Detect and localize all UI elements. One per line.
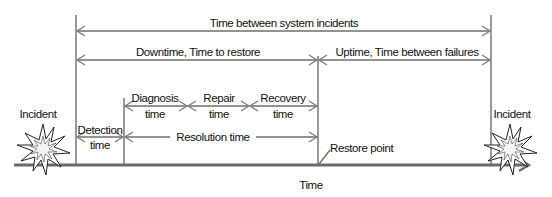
incident-timeline-diagram: Time between system incidents Downtime, … [0, 0, 552, 197]
time-between-incidents-label: Time between system incidents [210, 17, 359, 29]
resolution-label: Resolution time [176, 131, 249, 143]
detection-label-time: time [90, 139, 110, 151]
recovery-label-time: time [273, 108, 293, 120]
repair-label-time: time [209, 108, 229, 120]
incident-right-label: Incident [493, 108, 531, 120]
restore-point-label: Restore point [330, 142, 394, 154]
repair-label: Repair [203, 92, 235, 104]
diagnosis-label-time: time [145, 108, 165, 120]
diagnosis-label: Diagnosis [132, 92, 180, 104]
explosion-icon [484, 124, 537, 175]
downtime-label: Downtime, Time to restore [136, 46, 260, 58]
explosion-icon [17, 124, 70, 175]
incident-left-label: Incident [19, 108, 57, 120]
time-axis-label: Time [299, 179, 323, 191]
uptime-label: Uptime, Time between failures [335, 46, 479, 58]
detection-label: Detection [78, 124, 123, 136]
time-axis [14, 159, 529, 171]
recovery-label: Recovery [260, 92, 306, 104]
restore-point-pointer [319, 150, 330, 164]
